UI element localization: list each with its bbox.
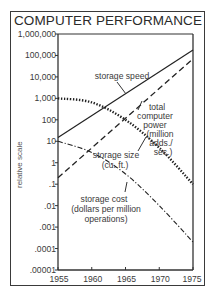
y-tick-label: 1,000 xyxy=(34,93,56,103)
storage-cost-label: operations) xyxy=(85,214,128,224)
y-tick-label: 10,000 xyxy=(30,72,57,82)
y-axis-label: relative scale xyxy=(15,141,24,188)
y-tick-label: .0001 xyxy=(34,244,56,254)
x-tick-label: 1965 xyxy=(117,274,136,284)
y-tick-label: 100,000 xyxy=(25,50,56,60)
y-tick-label: .1 xyxy=(49,179,56,189)
annotations: storage speedtotalcomputerpower(milliona… xyxy=(71,71,174,224)
x-tick-label: 1960 xyxy=(83,274,102,284)
total-power-label: sec.) xyxy=(154,147,173,157)
storage-size-label: (cu. ft.) xyxy=(102,160,129,170)
y-tick-label: 10 xyxy=(46,136,56,146)
y-tick-label: .001 xyxy=(39,222,56,232)
storage-size-label: storage size xyxy=(93,150,140,160)
storage-cost-label: (dollars per million xyxy=(71,204,141,214)
y-tick-label: 1 xyxy=(51,158,56,168)
storage-speed-label: storage speed xyxy=(95,71,150,81)
storage-cost-label: storage cost xyxy=(81,194,128,204)
storage-speed-leader xyxy=(117,82,126,94)
storage-cost-leader xyxy=(125,182,127,192)
y-tick-label: .01 xyxy=(44,201,56,211)
x-tick-label: 1955 xyxy=(49,274,68,284)
y-tick-label: 1,000,000 xyxy=(18,29,56,39)
total-power-leader xyxy=(138,101,142,110)
y-tick-label: 100 xyxy=(42,115,57,125)
storage-size-leader xyxy=(138,137,146,151)
chart-plot: 1,000,000100,00010,0001,000100101.1.01.0… xyxy=(0,0,211,294)
x-tick-label: 1970 xyxy=(151,274,170,284)
x-tick-label: 1975 xyxy=(182,274,201,284)
